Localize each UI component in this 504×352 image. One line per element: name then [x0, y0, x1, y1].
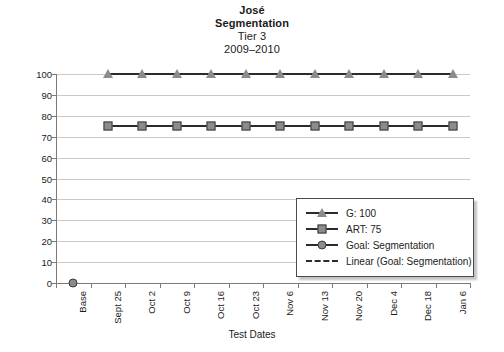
x-tick-label: Nov 6	[284, 291, 295, 316]
chart-container: José Segmentation Tier 3 2009–2010 01020…	[0, 0, 504, 352]
chart-title-line-4: 2009–2010	[0, 43, 504, 56]
data-point-triangle	[448, 69, 458, 78]
data-point-square	[207, 122, 216, 131]
x-tick-mark	[91, 283, 92, 288]
y-tick-mark	[52, 179, 56, 180]
y-tick-mark	[52, 137, 56, 138]
x-tick-mark	[436, 283, 437, 288]
legend-marker-none-icon	[305, 254, 339, 268]
x-tick-label: Oct 16	[215, 291, 226, 319]
data-point-triangle	[172, 69, 182, 78]
x-tick-mark	[367, 283, 368, 288]
data-point-triangle	[413, 69, 423, 78]
x-tick-label: Dec 4	[388, 291, 399, 316]
data-point-square	[103, 122, 112, 131]
data-point-triangle	[275, 69, 285, 78]
y-tick-mark	[52, 158, 56, 159]
data-point-triangle	[137, 69, 147, 78]
x-tick-mark	[194, 283, 195, 288]
y-tick-mark	[52, 95, 56, 96]
y-tick-label: 60	[16, 152, 52, 163]
y-tick-label: 30	[16, 215, 52, 226]
x-tick-mark	[298, 283, 299, 288]
legend-label: Linear (Goal: Segmentation)	[346, 256, 472, 267]
y-axis-tick-labels: 0102030405060708090100	[8, 74, 52, 283]
data-point-triangle	[310, 69, 320, 78]
data-point-square	[241, 122, 250, 131]
y-tick-mark	[52, 199, 56, 200]
x-tick-mark	[263, 283, 264, 288]
chart-title-line-2: Segmentation	[0, 17, 504, 30]
x-tick-mark	[470, 283, 471, 288]
x-tick-mark	[401, 283, 402, 288]
data-point-circle	[69, 279, 78, 288]
x-tick-mark	[332, 283, 333, 288]
legend-item[interactable]: Goal: Segmentation	[305, 237, 465, 253]
data-point-square	[345, 122, 354, 131]
data-point-triangle	[241, 69, 251, 78]
y-tick-mark	[52, 262, 56, 263]
gridline	[56, 137, 470, 138]
x-tick-label: Jan 6	[457, 291, 468, 314]
data-point-square	[448, 122, 457, 131]
x-tick-mark	[56, 283, 57, 288]
legend-label: G: 100	[346, 208, 376, 219]
legend-marker-triangle-icon	[305, 206, 339, 220]
y-tick-label: 90	[16, 89, 52, 100]
data-point-square	[379, 122, 388, 131]
y-tick-mark	[52, 116, 56, 117]
data-point-triangle	[206, 69, 216, 78]
gridline	[56, 179, 470, 180]
gridline	[56, 158, 470, 159]
legend-marker-circle-icon	[305, 238, 339, 252]
x-tick-label: Sept 25	[112, 291, 123, 324]
data-point-square	[276, 122, 285, 131]
x-tick-label: Oct 23	[250, 291, 261, 319]
y-axis-line	[56, 74, 57, 284]
x-tick-mark	[160, 283, 161, 288]
y-tick-mark	[52, 283, 56, 284]
legend-item[interactable]: G: 100	[305, 205, 465, 221]
y-tick-label: 50	[16, 173, 52, 184]
y-tick-mark	[52, 241, 56, 242]
chart-legend: G: 100ART: 75Goal: SegmentationLinear (G…	[296, 198, 474, 277]
chart-title-line-1: José	[0, 4, 504, 17]
x-tick-label: Nov 20	[353, 291, 364, 321]
gridline	[56, 116, 470, 117]
y-tick-label: 70	[16, 131, 52, 142]
x-tick-label: Base	[77, 291, 88, 313]
legend-item[interactable]: Linear (Goal: Segmentation)	[305, 253, 465, 269]
y-tick-label: 100	[16, 69, 52, 80]
data-point-square	[310, 122, 319, 131]
gridline	[56, 95, 470, 96]
x-tick-label: Oct 2	[146, 291, 157, 314]
data-point-triangle	[344, 69, 354, 78]
legend-label: ART: 75	[346, 224, 381, 235]
y-tick-label: 40	[16, 194, 52, 205]
y-tick-label: 10	[16, 257, 52, 268]
y-tick-mark	[52, 220, 56, 221]
chart-title: José Segmentation Tier 3 2009–2010	[0, 4, 504, 56]
x-tick-mark	[229, 283, 230, 288]
x-tick-label: Oct 9	[181, 291, 192, 314]
y-tick-label: 20	[16, 236, 52, 247]
x-axis-title: Test Dates	[0, 329, 504, 340]
x-tick-mark	[125, 283, 126, 288]
data-point-triangle	[379, 69, 389, 78]
x-tick-label: Dec 18	[422, 291, 433, 321]
data-point-square	[414, 122, 423, 131]
legend-marker-square-icon	[305, 222, 339, 236]
legend-label: Goal: Segmentation	[346, 240, 434, 251]
x-tick-label: Nov 13	[319, 291, 330, 321]
data-point-square	[172, 122, 181, 131]
y-tick-mark	[52, 74, 56, 75]
data-point-triangle	[103, 69, 113, 78]
chart-title-line-3: Tier 3	[0, 30, 504, 43]
y-tick-label: 0	[16, 278, 52, 289]
y-tick-label: 80	[16, 110, 52, 121]
data-point-square	[138, 122, 147, 131]
legend-item[interactable]: ART: 75	[305, 221, 465, 237]
